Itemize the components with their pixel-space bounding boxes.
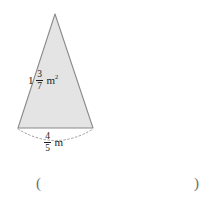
- area-label: 1 3 7 m2: [28, 70, 58, 91]
- base-measure: 4 5 m: [43, 132, 63, 153]
- area-unit-exponent: 2: [55, 73, 58, 80]
- area-mixed-number: 1 3 7 m2: [28, 70, 58, 91]
- base-numerator: 4: [44, 132, 51, 142]
- area-whole-part: 1: [28, 75, 34, 86]
- geometry-figure-panel: 1 3 7 m2 4 5 m ( ): [0, 0, 205, 205]
- area-unit: m2: [47, 75, 59, 86]
- answer-blank[interactable]: ( ): [36, 172, 199, 194]
- base-denominator: 5: [44, 143, 51, 153]
- base-fraction: 4 5: [44, 132, 51, 153]
- area-numerator: 3: [36, 70, 43, 80]
- base-length-label: 4 5 m: [43, 130, 63, 153]
- area-unit-text: m: [47, 74, 56, 86]
- right-paren: ): [194, 176, 199, 191]
- base-unit: m: [55, 137, 64, 148]
- answer-input[interactable]: [41, 175, 194, 191]
- area-denominator: 7: [36, 81, 43, 91]
- area-fraction: 3 7: [36, 70, 43, 91]
